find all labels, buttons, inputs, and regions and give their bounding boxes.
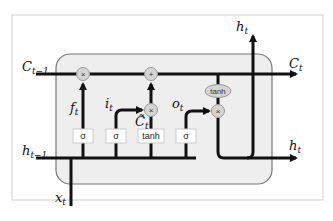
add-op: + (145, 68, 158, 81)
candidate-tanh-box: tanh (138, 129, 164, 143)
svg-text:×: × (81, 70, 86, 79)
lstm-diagram: × + × × tanh σ σ tanh σ Ct−1 ht−1 xt ft … (0, 0, 333, 221)
forget-multiply-op: × (77, 68, 90, 81)
svg-text:×: × (149, 106, 154, 115)
output-tanh-op: tanh (205, 85, 231, 98)
svg-text:×: × (216, 107, 221, 116)
output-sigma-box: σ (176, 129, 196, 143)
svg-text:σ: σ (80, 131, 86, 141)
input-multiply-op: × (145, 104, 158, 117)
forget-sigma-box: σ (73, 129, 93, 143)
svg-text:tanh: tanh (142, 131, 160, 141)
output-multiply-op: × (212, 105, 225, 118)
svg-text:σ: σ (113, 131, 119, 141)
svg-text:+: + (149, 70, 154, 79)
input-sigma-box: σ (106, 129, 126, 143)
svg-text:σ: σ (183, 131, 189, 141)
svg-text:tanh: tanh (210, 87, 226, 96)
